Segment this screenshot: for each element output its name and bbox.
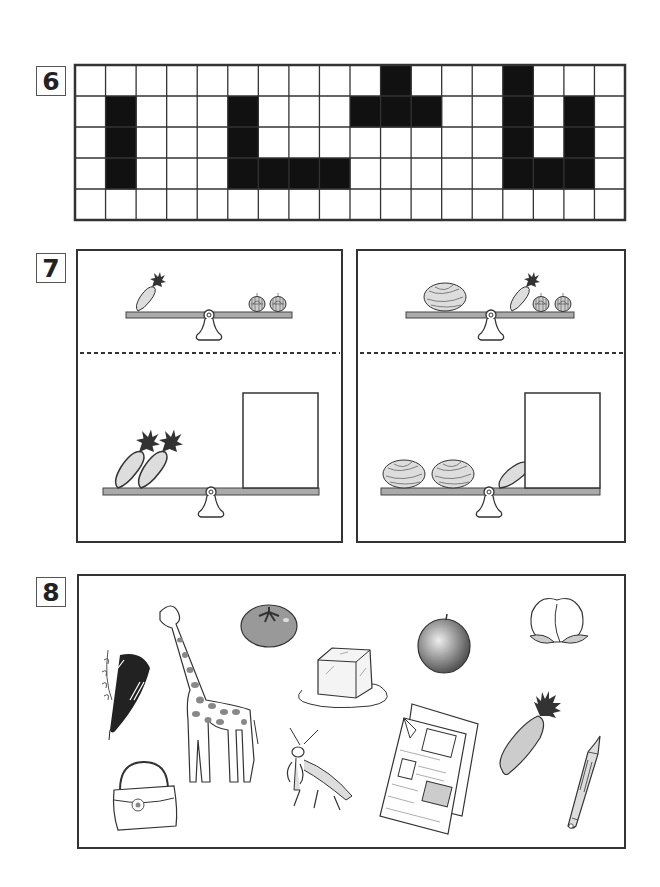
handbag-icon <box>114 762 177 830</box>
pencil-icon <box>568 736 600 828</box>
peach-icon <box>530 599 588 644</box>
ice-cube-icon <box>298 648 387 708</box>
praying-mantis-icon <box>287 728 352 810</box>
picture-items <box>0 0 660 887</box>
woodpecker-icon <box>102 650 150 740</box>
carrot-icon <box>500 691 561 775</box>
newspaper-icon <box>380 704 478 834</box>
tomato-icon <box>241 605 297 647</box>
apple-icon <box>418 614 470 673</box>
